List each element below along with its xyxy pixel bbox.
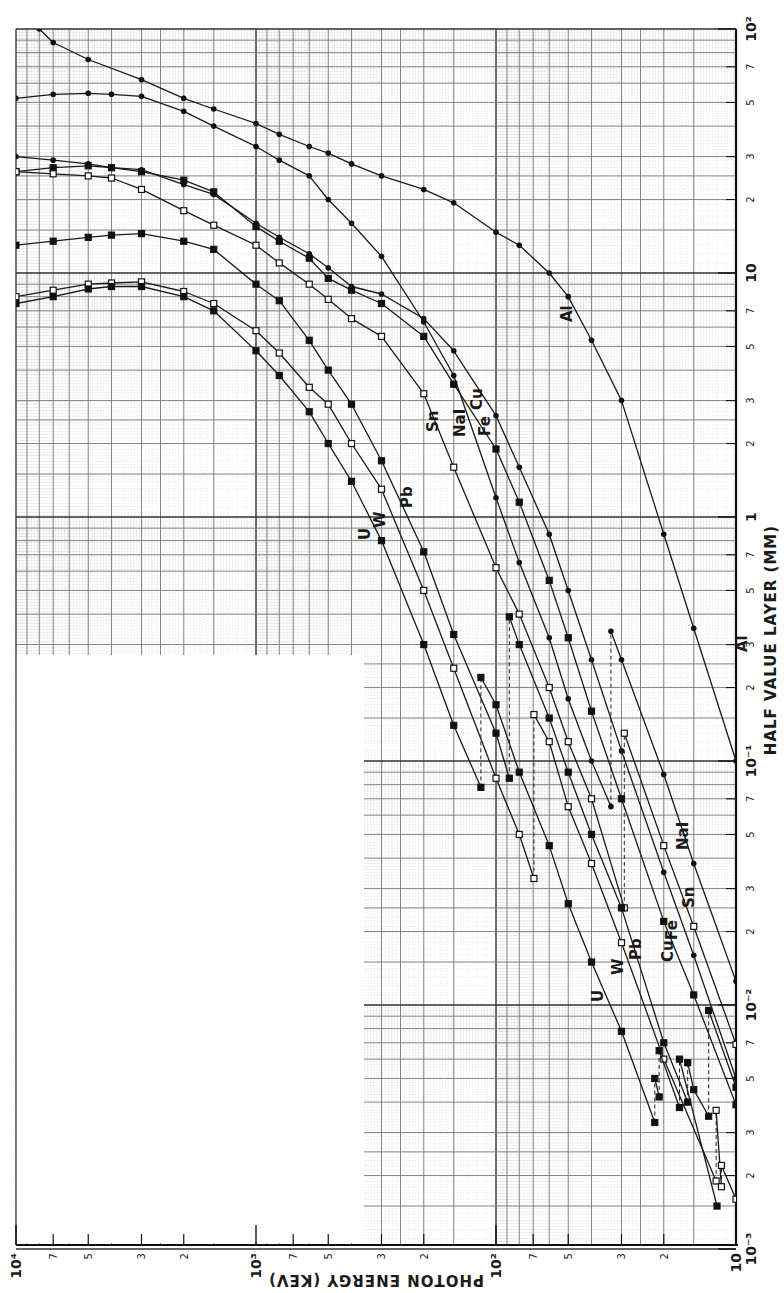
data-point xyxy=(349,220,355,226)
data-point xyxy=(493,775,499,781)
label-cu-lower: Cu xyxy=(659,940,677,962)
label-al-lower: Al xyxy=(733,635,751,652)
data-point xyxy=(325,197,331,203)
data-point xyxy=(349,161,355,167)
label-cu: Cu xyxy=(468,388,486,410)
data-point xyxy=(589,861,595,867)
data-point xyxy=(306,409,312,415)
data-point xyxy=(85,286,91,292)
data-point xyxy=(619,657,625,663)
data-point xyxy=(421,333,427,339)
data-point xyxy=(676,1056,682,1062)
y-tick-minor: 7 xyxy=(745,308,756,314)
data-point xyxy=(181,108,187,114)
data-point xyxy=(138,284,144,290)
data-point xyxy=(656,1094,662,1100)
y-tick-minor: 5 xyxy=(745,831,756,837)
data-point xyxy=(109,284,115,290)
data-point xyxy=(608,629,614,635)
data-point xyxy=(276,238,282,244)
x-tick-minor: 3 xyxy=(136,1253,147,1259)
data-point xyxy=(253,328,259,334)
data-point xyxy=(138,231,144,237)
x-tick-major: 10 xyxy=(728,1253,744,1273)
data-point xyxy=(306,255,312,261)
data-point xyxy=(13,95,19,101)
y-tick-minor: 5 xyxy=(745,1075,756,1081)
data-point xyxy=(138,169,144,175)
data-point xyxy=(589,959,595,965)
y-tick-minor: 5 xyxy=(745,343,756,349)
data-point xyxy=(506,775,512,781)
faded-grid-region xyxy=(16,655,364,1243)
chart: 10⁴10³10²1075327532753210⁻³10⁻²10⁻¹11010… xyxy=(0,0,784,1293)
data-point xyxy=(451,381,457,387)
label-nai: NaI xyxy=(451,409,469,437)
y-tick-minor: 2 xyxy=(745,440,756,446)
data-point xyxy=(253,242,259,248)
data-point xyxy=(676,1105,682,1111)
data-point xyxy=(565,769,571,775)
data-point xyxy=(733,1102,739,1108)
label-w-lower: W xyxy=(609,958,627,975)
label-fe-lower: Fe xyxy=(663,920,681,940)
data-point xyxy=(589,657,595,663)
data-point xyxy=(546,270,552,276)
label-al-upper: Al xyxy=(558,305,576,322)
data-point xyxy=(619,748,625,754)
data-point xyxy=(685,1060,691,1066)
data-point xyxy=(349,287,355,293)
data-point xyxy=(546,685,552,691)
data-point xyxy=(50,287,56,293)
data-point xyxy=(211,246,217,252)
y-tick-minor: 7 xyxy=(745,796,756,802)
data-point xyxy=(691,625,697,631)
data-point xyxy=(451,722,457,728)
data-point xyxy=(253,281,259,287)
y-tick-major: 10 xyxy=(743,263,759,283)
data-point xyxy=(589,758,595,764)
data-point xyxy=(713,1178,719,1184)
data-point xyxy=(565,901,571,907)
data-point xyxy=(181,95,187,101)
x-tick-minor: 7 xyxy=(48,1253,59,1259)
data-point xyxy=(421,391,427,397)
label-fe: Fe xyxy=(476,416,494,436)
data-point xyxy=(325,441,331,447)
data-point xyxy=(85,173,91,179)
y-tick-minor: 2 xyxy=(745,928,756,934)
data-point xyxy=(565,588,571,594)
data-point xyxy=(50,91,56,97)
data-point xyxy=(706,1113,712,1119)
x-tick-major: 10⁴ xyxy=(8,1253,24,1279)
data-point xyxy=(85,91,91,97)
data-point xyxy=(349,401,355,407)
data-point xyxy=(619,398,625,404)
y-tick-minor: 3 xyxy=(745,1129,756,1135)
data-point xyxy=(661,772,667,778)
data-point xyxy=(531,875,537,881)
data-point xyxy=(565,635,571,641)
data-point xyxy=(546,577,552,583)
data-point xyxy=(478,674,484,680)
data-point xyxy=(733,1041,739,1047)
data-point xyxy=(181,294,187,300)
data-point xyxy=(713,1107,719,1113)
data-point xyxy=(306,144,312,150)
data-point xyxy=(421,642,427,648)
data-point xyxy=(13,294,19,300)
data-point xyxy=(276,373,282,379)
data-point xyxy=(325,275,331,281)
x-tick-minor: 5 xyxy=(323,1253,334,1259)
data-point xyxy=(691,952,697,958)
data-point xyxy=(618,796,624,802)
data-point xyxy=(451,464,457,470)
data-point xyxy=(589,708,595,714)
x-tick-minor: 2 xyxy=(419,1253,430,1259)
data-point xyxy=(565,804,571,810)
data-point xyxy=(211,222,217,228)
data-point xyxy=(378,538,384,544)
data-point xyxy=(506,614,512,620)
label-u-lower: U xyxy=(589,990,607,1002)
data-point xyxy=(211,308,217,314)
